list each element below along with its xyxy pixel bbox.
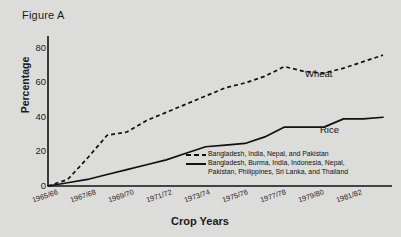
legend-solid-line-icon (186, 159, 208, 166)
legend-label-wheat: Bangladesh, India, Nepal, and Pakistan (208, 150, 329, 158)
series-annotation-wheat: Wheat (305, 68, 332, 79)
legend-item-wheat: Bangladesh, India, Nepal, and Pakistan (186, 150, 348, 158)
legend-label-rice: Bangladesh, Burma, India, Indonesia, Nep… (208, 159, 348, 176)
figure-container: Figure A Percentage Crop Years 80 60 40 … (0, 0, 401, 237)
legend-item-rice: Bangladesh, Burma, India, Indonesia, Nep… (186, 159, 348, 176)
legend-dashed-line-icon (186, 150, 208, 157)
series-annotation-rice: Rice (320, 124, 339, 135)
legend: Bangladesh, India, Nepal, and Pakistan B… (186, 150, 348, 177)
plot-area (0, 0, 401, 237)
